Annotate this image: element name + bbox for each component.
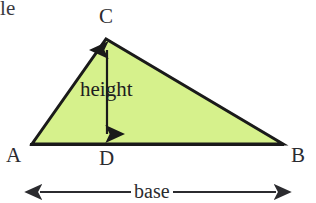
vertex-label-d: D	[99, 148, 114, 169]
vertex-label-c: C	[99, 6, 113, 27]
cropped-caption-text: le	[0, 0, 16, 19]
height-label: height	[80, 79, 133, 100]
base-label: base	[131, 181, 173, 201]
vertex-label-a: A	[6, 145, 21, 166]
diagram-canvas	[0, 0, 316, 203]
triangle-diagram: le C A B D height base	[0, 0, 316, 203]
triangle-shape	[32, 39, 283, 144]
vertex-label-b: B	[291, 145, 305, 166]
